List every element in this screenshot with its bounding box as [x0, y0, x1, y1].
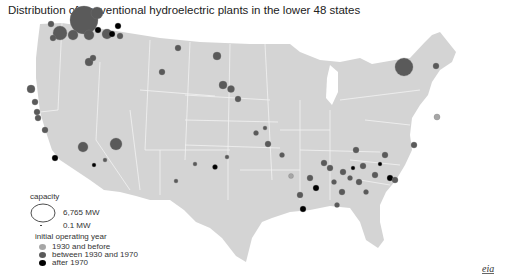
- legend-swatch-1930-before: [39, 244, 46, 250]
- legend-capacity-min: 0.1 MW: [63, 221, 91, 230]
- legend-capacity-label: capacity: [30, 192, 59, 201]
- legend-capacity-max-symbol: [30, 203, 56, 225]
- legend-swatch-after-1970: [39, 260, 46, 266]
- lower-48-landmass: [36, 23, 456, 262]
- eia-logo: eia: [482, 264, 494, 274]
- legend-swatch-1930-1970: [39, 252, 46, 258]
- legend-capacity-max: 6,765 MW: [63, 208, 99, 217]
- legend-year-label: initial operating year: [35, 232, 107, 241]
- legend-item-after-1970: after 1970: [52, 258, 88, 267]
- legend-capacity-min-symbol: [40, 225, 42, 226]
